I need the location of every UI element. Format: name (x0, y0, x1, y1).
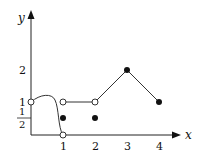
y-axis-label: y (17, 11, 25, 25)
x-tick-4: 4 (156, 140, 163, 153)
open-point-icon (92, 99, 98, 105)
y-tick-half-numerator: 1 (19, 106, 25, 117)
y-tick-2: 2 (19, 64, 26, 77)
piecewise-line (63, 70, 159, 102)
closed-point-icon (60, 115, 66, 121)
x-tick-3: 3 (124, 140, 131, 153)
x-axis-arrow-icon (172, 132, 181, 139)
open-point-icon (28, 99, 34, 105)
y-tick-half-denominator: 2 (19, 119, 25, 130)
x-axis-label: x (185, 128, 192, 142)
closed-point-icon (156, 99, 162, 105)
curve-segment (31, 95, 63, 135)
closed-point-icon (124, 67, 130, 73)
open-point-icon (60, 99, 66, 105)
open-point-icon (60, 132, 66, 138)
x-tick-2: 2 (92, 140, 99, 153)
x-tick-1: 1 (60, 140, 67, 153)
y-axis-arrow-icon (28, 10, 35, 19)
closed-point-icon (92, 115, 98, 121)
function-graph: x y 1 2 3 4 2 1 1 2 (0, 0, 211, 160)
